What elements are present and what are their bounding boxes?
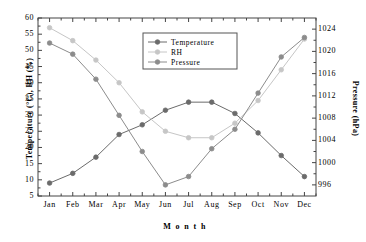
legend-swatch-marker bbox=[155, 50, 160, 55]
data-point-temperature bbox=[47, 181, 52, 186]
data-point-pressure bbox=[140, 149, 145, 154]
data-point-pressure bbox=[279, 55, 284, 60]
legend-swatch-marker bbox=[155, 60, 160, 65]
data-point-rh bbox=[233, 121, 238, 126]
legend-swatch-marker bbox=[155, 40, 160, 45]
data-point-temperature bbox=[70, 171, 75, 176]
data-point-rh bbox=[279, 67, 284, 72]
data-point-rh bbox=[94, 58, 99, 63]
data-point-rh bbox=[70, 38, 75, 43]
data-point-pressure bbox=[186, 174, 191, 179]
data-point-temperature bbox=[94, 155, 99, 160]
weather-line-chart: Temperature (°C), RH (%) Pressure (hPa) … bbox=[0, 0, 366, 242]
plot-area: TemperatureRHPressure bbox=[0, 0, 366, 242]
data-point-temperature bbox=[163, 108, 168, 113]
data-point-pressure bbox=[163, 183, 168, 188]
data-point-rh bbox=[163, 129, 168, 134]
legend-label: RH bbox=[171, 48, 183, 57]
data-point-rh bbox=[140, 110, 145, 115]
data-point-temperature bbox=[279, 153, 284, 158]
data-point-rh bbox=[47, 25, 52, 30]
legend-label: Pressure bbox=[171, 58, 201, 67]
data-point-temperature bbox=[256, 131, 261, 136]
data-point-pressure bbox=[70, 52, 75, 57]
data-point-temperature bbox=[302, 174, 307, 179]
data-point-temperature bbox=[233, 111, 238, 116]
data-point-pressure bbox=[117, 113, 122, 118]
data-point-pressure bbox=[209, 146, 214, 151]
data-point-temperature bbox=[186, 100, 191, 105]
data-point-rh bbox=[117, 80, 122, 85]
data-point-rh bbox=[256, 98, 261, 103]
data-point-pressure bbox=[94, 77, 99, 82]
data-point-temperature bbox=[117, 132, 122, 137]
data-point-rh bbox=[186, 135, 191, 140]
data-point-pressure bbox=[256, 91, 261, 96]
data-point-temperature bbox=[140, 123, 145, 128]
data-point-pressure bbox=[47, 41, 52, 46]
data-point-temperature bbox=[209, 100, 214, 105]
data-point-rh bbox=[209, 135, 214, 140]
data-point-pressure bbox=[302, 35, 307, 40]
legend-label: Temperature bbox=[171, 38, 214, 47]
data-point-pressure bbox=[233, 127, 238, 132]
series-line-temperature bbox=[50, 102, 305, 183]
